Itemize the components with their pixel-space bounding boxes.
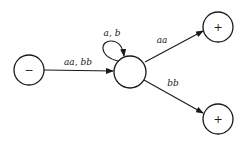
edge-start-to-middle: aa, bb xyxy=(44,57,113,71)
final-state-bottom: + xyxy=(203,104,233,134)
edge-label-middle-bottom: bb xyxy=(167,78,179,88)
automaton-diagram: aa, bb a, b aa bb − + + xyxy=(0,0,247,142)
start-state: − xyxy=(14,55,44,85)
final-state-top: + xyxy=(203,12,233,42)
intermediate-state xyxy=(114,56,146,88)
edge-label-self-loop: a, b xyxy=(104,28,121,38)
start-state-symbol: − xyxy=(24,64,33,77)
edge-label-start-middle: aa, bb xyxy=(64,57,92,67)
edge-middle-to-bottom: bb xyxy=(144,78,203,113)
final-state-top-symbol: + xyxy=(213,21,222,34)
edge-middle-to-top: aa xyxy=(145,31,203,62)
edge-label-middle-top: aa xyxy=(157,35,168,45)
final-state-bottom-symbol: + xyxy=(213,113,222,126)
edge-self-loop-middle: a, b xyxy=(103,28,124,61)
